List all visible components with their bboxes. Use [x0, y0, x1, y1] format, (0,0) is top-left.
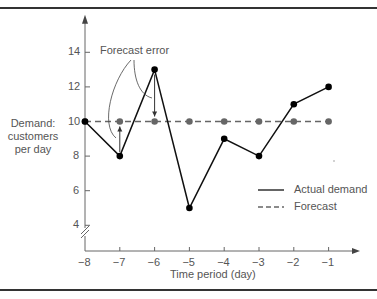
y-axis-label-line-3: per day — [0, 143, 66, 156]
y-tick-label: 8 — [73, 149, 79, 161]
y-tick-label: 6 — [73, 184, 79, 196]
forecast-error-annotation — [109, 60, 158, 152]
x-tick-label: −3 — [252, 256, 265, 268]
forecast-marker — [291, 118, 298, 125]
actual-demand-marker — [291, 101, 298, 108]
forecast-marker — [117, 118, 124, 125]
x-tick-label: −2 — [287, 256, 300, 268]
forecast-marker — [256, 118, 263, 125]
x-axis-arrow-icon — [352, 248, 360, 254]
annotation-leader-left — [109, 60, 131, 138]
x-axis-label: Time period (day) — [170, 268, 256, 280]
y-tick-label: 14 — [68, 45, 80, 57]
actual-demand-marker — [82, 118, 89, 125]
actual-demand-marker — [117, 153, 124, 160]
y-axis-label-line-1: Demand: — [0, 117, 66, 130]
y-axis-label-line-2: customers — [0, 130, 66, 143]
error-arrow-day-minus-7-head-icon — [117, 127, 122, 132]
actual-demand-marker — [325, 84, 332, 91]
x-tick-label: −6 — [148, 256, 161, 268]
x-tick-label: −5 — [182, 256, 195, 268]
actual-demand-line — [85, 70, 329, 208]
forecast-marker — [186, 118, 193, 125]
y-axis-arrow-icon — [82, 15, 88, 24]
y-axis-label: Demand: customers per day — [0, 117, 66, 156]
x-tick-label: −8 — [78, 256, 91, 268]
y-tick-label: 12 — [68, 80, 80, 92]
actual-demand-marker — [221, 136, 228, 143]
legend-forecast: Forecast — [294, 200, 337, 212]
legend-actual-demand: Actual demand — [294, 183, 367, 195]
stray-dot — [333, 160, 335, 162]
annotation-forecast-error: Forecast error — [100, 44, 169, 56]
x-tick-label: −4 — [217, 256, 230, 268]
forecast-marker — [151, 118, 158, 125]
x-tick-label: −1 — [322, 256, 335, 268]
forecast-marker — [325, 118, 332, 125]
error-arrow-day-minus-6-head-icon — [152, 112, 157, 117]
x-tick-label: −7 — [113, 256, 126, 268]
actual-demand-marker — [186, 205, 193, 212]
annotation-leader-right — [134, 60, 152, 98]
y-tick-label: 10 — [68, 115, 80, 127]
forecast-marker — [221, 118, 228, 125]
y-tick-label: 4 — [73, 218, 79, 230]
actual-demand-marker — [151, 66, 158, 73]
actual-demand-marker — [256, 153, 263, 160]
